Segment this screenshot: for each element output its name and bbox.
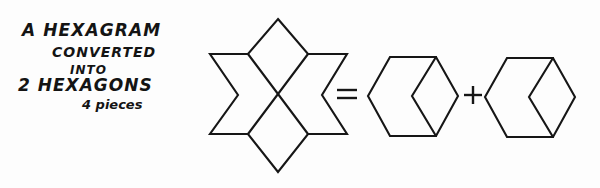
drawing-page: A HEXAGRAM CONVERTED INTO 2 HEXAGONS 4 p… xyxy=(0,0,600,188)
plus-sign xyxy=(464,86,482,104)
equals-sign xyxy=(337,90,357,98)
hexagram-figure xyxy=(210,19,347,172)
hexagon-right-figure xyxy=(485,58,575,137)
hexagon-left-cut-line xyxy=(412,57,436,136)
hexagon-left-figure xyxy=(368,57,458,136)
hexagon-right-cut-line xyxy=(529,58,553,137)
dissection-diagram xyxy=(0,0,600,188)
